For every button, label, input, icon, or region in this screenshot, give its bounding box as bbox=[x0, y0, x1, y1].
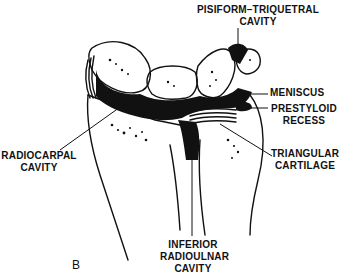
lunate-bone bbox=[147, 66, 197, 99]
label-triangular-cartilage: TRIANGULAR CARTILAGE bbox=[271, 148, 339, 172]
label-inferior-radioulnar-cavity: INFERIOR RADIOULNAR CAVITY bbox=[160, 239, 226, 274]
label-line: RADIOCARPAL bbox=[0, 150, 78, 162]
leader-radiocarpal bbox=[60, 100, 130, 150]
radius-bone bbox=[88, 95, 128, 260]
wrist-anatomy-diagram bbox=[0, 0, 339, 274]
label-line: RADIOULNAR bbox=[160, 251, 226, 263]
prestyloid-recess-fill bbox=[236, 102, 252, 111]
ulna-bone bbox=[199, 140, 205, 235]
label-line: RECESS bbox=[270, 115, 338, 127]
label-line: CAVITY bbox=[183, 16, 333, 28]
triquetrum-bone bbox=[197, 49, 235, 97]
label-meniscus: MENISCUS bbox=[270, 87, 324, 99]
label-prestyloid-recess: PRESTYLOID RECESS bbox=[270, 103, 338, 127]
label-line: PRESTYLOID bbox=[270, 103, 338, 115]
label-radiocarpal-cavity: RADIOCARPAL CAVITY bbox=[0, 150, 78, 174]
label-line: CAVITY bbox=[160, 263, 226, 274]
radioulnar-cavity-fill bbox=[178, 120, 199, 160]
label-pisiform-triquetral-cavity: PISIFORM–TRIQUETRAL CAVITY bbox=[183, 4, 333, 28]
label-line: TRIANGULAR bbox=[271, 148, 339, 160]
label-line: CAVITY bbox=[0, 162, 78, 174]
label-line: INFERIOR bbox=[160, 239, 226, 251]
label-line: MENISCUS bbox=[270, 87, 324, 99]
label-line: PISIFORM–TRIQUETRAL bbox=[183, 4, 333, 16]
panel-letter: B bbox=[72, 258, 80, 272]
label-line: CARTILAGE bbox=[271, 160, 339, 172]
